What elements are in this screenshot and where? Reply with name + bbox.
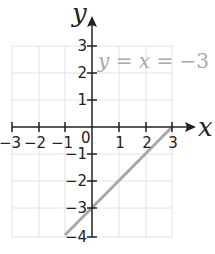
coordinate-graph: x y −3 −2 −1 1 2 3 0 3 2 1 −1 −2 −3 −4 y… xyxy=(0,0,215,254)
svg-text:3: 3 xyxy=(77,37,87,55)
svg-text:3: 3 xyxy=(168,134,178,152)
svg-text:−1: −1 xyxy=(65,145,87,163)
svg-text:−2: −2 xyxy=(65,172,87,190)
equation-annotation: y = x = −3 xyxy=(97,49,209,73)
x-axis-label: x xyxy=(198,112,213,142)
y-axis-label: y xyxy=(71,0,87,28)
svg-text:−3: −3 xyxy=(65,199,87,217)
svg-text:1: 1 xyxy=(115,134,125,152)
svg-text:2: 2 xyxy=(77,64,87,82)
svg-text:−2: −2 xyxy=(24,134,46,152)
svg-text:2: 2 xyxy=(142,134,152,152)
svg-text:−3: −3 xyxy=(0,134,21,152)
svg-text:−4: −4 xyxy=(65,228,87,246)
svg-text:1: 1 xyxy=(77,91,87,109)
